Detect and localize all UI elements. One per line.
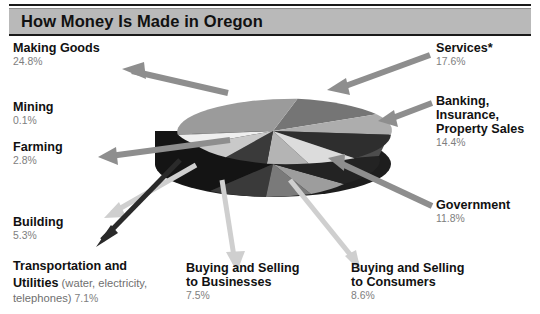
label-buying-consumers-line2: to Consumers [351,275,464,289]
label-transportation-name-line1: Transportation and [13,259,178,273]
label-banking-line1: Banking, [436,94,540,108]
chart-page: How Money Is Made in Oregon [0,0,540,314]
pie-chart-svg [148,72,398,252]
label-transportation: Transportation and Utilities (water, ele… [13,259,178,305]
label-buying-businesses-line1: Buying and Selling [186,261,299,275]
label-building-pct: 5.3% [13,229,63,242]
label-transportation-note-line2: telephones) 7.1% [13,291,178,305]
label-farming: Farming 2.8% [13,140,63,167]
label-services: Services* 17.6% [436,41,493,68]
pie-chart [148,72,398,252]
label-mining-name: Mining [13,100,54,114]
label-mining-pct: 0.1% [13,114,54,127]
label-services-name: Services* [436,41,493,55]
label-buying-businesses-line2: to Businesses [186,275,299,289]
label-banking: Banking, Insurance, Property Sales 14.4% [436,94,540,149]
label-banking-line3: Property Sales [436,122,540,136]
title-top-rule [9,4,531,6]
label-government: Government 11.8% [436,198,510,225]
label-farming-pct: 2.8% [13,154,63,167]
label-building-name: Building [13,215,63,229]
label-farming-name: Farming [13,140,63,154]
page-title: How Money Is Made in Oregon [21,12,263,31]
label-buying-businesses: Buying and Selling to Businesses 7.5% [186,261,299,302]
label-government-pct: 11.8% [436,212,510,225]
title-bottom-rule [9,34,531,36]
label-buying-consumers-line1: Buying and Selling [351,261,464,275]
label-transportation-note-tail: telephones) [13,292,75,304]
label-buying-businesses-pct: 7.5% [186,289,299,302]
label-making-goods-name: Making Goods [13,41,100,55]
label-government-name: Government [436,198,510,212]
label-buying-consumers-pct: 8.6% [351,289,464,302]
label-buying-consumers: Buying and Selling to Consumers 8.6% [351,261,464,302]
label-making-goods: Making Goods 24.8% [13,41,100,68]
label-making-goods-pct: 24.8% [13,55,100,68]
label-banking-pct: 14.4% [436,136,540,149]
label-building: Building 5.3% [13,215,63,242]
label-mining: Mining 0.1% [13,100,54,127]
title-banner: How Money Is Made in Oregon [9,8,531,34]
label-banking-line2: Insurance, [436,108,540,122]
label-services-pct: 17.6% [436,55,493,68]
label-transportation-name-line2: Utilities [13,276,59,290]
label-transportation-pct: 7.1% [75,293,99,304]
label-transportation-note: (water, electricity, [59,277,148,289]
